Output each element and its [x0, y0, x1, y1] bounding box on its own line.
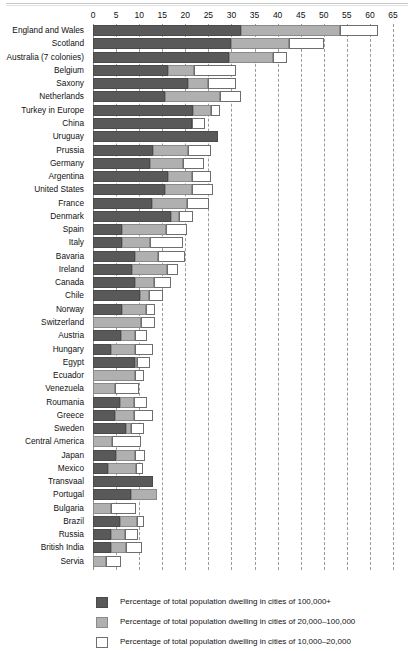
bar-row: Turkey in Europe: [0, 104, 414, 117]
bar-row: Prussia: [0, 143, 414, 156]
bar-row: Switzerland: [0, 316, 414, 329]
x-axis-ticks: 05101520253035404550556065: [0, 10, 414, 24]
bar-segment-series-2: [171, 211, 179, 222]
stacked-bar: [88, 91, 414, 102]
bar-row-label: Saxony: [0, 79, 88, 88]
bar-row: Bulgaria: [0, 502, 414, 515]
bar-segment-series-2: [231, 38, 289, 49]
bar-row-label: Switzerland: [0, 318, 88, 327]
legend-swatch: [96, 597, 108, 608]
stacked-bar: [88, 105, 414, 116]
bar-segment-series-1: [93, 105, 193, 116]
legend-item: Percentage of total population dwelling …: [96, 592, 414, 612]
bar-segment-series-3: [115, 383, 139, 394]
bar-row-label: Hungary: [0, 345, 88, 354]
bar-segment-series-3: [289, 38, 324, 49]
bar-row: British India: [0, 541, 414, 554]
bar-row: Chile: [0, 289, 414, 302]
bar-segment-series-3: [187, 198, 209, 209]
bar-row: Belgium: [0, 64, 414, 77]
bar-segment-series-1: [93, 38, 231, 49]
bar-row-label: Mexico: [0, 464, 88, 473]
bar-row: Austria: [0, 329, 414, 342]
stacked-bar: [88, 131, 414, 142]
bar-segment-series-2: [115, 410, 133, 421]
bar-segment-series-3: [111, 503, 135, 514]
bar-row-label: Roumania: [0, 398, 88, 407]
stacked-bar: [88, 476, 414, 487]
bar-row-label: United States: [0, 185, 88, 194]
x-axis-tick-label: 0: [91, 10, 96, 20]
bar-row: Spain: [0, 223, 414, 236]
bar-segment-series-3: [150, 237, 183, 248]
bar-segment-series-3: [146, 304, 155, 315]
bar-row-label: Venezuela: [0, 384, 88, 393]
legend-swatch: [96, 617, 108, 628]
bar-segment-series-1: [93, 476, 153, 487]
bar-row: Bavaria: [0, 250, 414, 263]
bar-row: Hungary: [0, 342, 414, 355]
bar-segment-series-3: [125, 529, 138, 540]
x-axis-tick-label: 30: [227, 10, 236, 20]
bar-segment-series-2: [165, 91, 220, 102]
bar-segment-series-1: [93, 529, 111, 540]
bar-segment-series-1: [93, 118, 192, 129]
bar-segment-series-1: [93, 397, 120, 408]
stacked-bar: [88, 529, 414, 540]
bar-segment-series-3: [135, 330, 148, 341]
bar-segment-series-3: [211, 105, 220, 116]
bar-segment-series-1: [93, 237, 122, 248]
bar-row: Italy: [0, 236, 414, 249]
bar-row-label: China: [0, 119, 88, 128]
bar-segment-series-3: [149, 290, 163, 301]
bar-segment-series-3: [194, 65, 236, 76]
bar-segment-series-1: [93, 516, 120, 527]
bar-row: Greece: [0, 409, 414, 422]
bar-segment-series-2: [93, 370, 135, 381]
legend-item: Percentage of total population dwelling …: [96, 632, 414, 651]
bar-segment-series-3: [137, 516, 144, 527]
bar-row-label: Denmark: [0, 212, 88, 221]
bar-segment-series-2: [131, 489, 156, 500]
bar-segment-series-1: [93, 52, 229, 63]
stacked-bar: [88, 211, 414, 222]
bar-segment-series-3: [158, 251, 186, 262]
bar-segment-series-2: [93, 556, 106, 567]
x-axis-tick-label: 5: [114, 10, 119, 20]
bar-segment-series-3: [166, 224, 187, 235]
bar-row-label: Sweden: [0, 424, 88, 433]
bar-row: Germany: [0, 157, 414, 170]
bar-row: Transvaal: [0, 475, 414, 488]
stacked-bar: [88, 542, 414, 553]
bar-segment-series-2: [120, 516, 138, 527]
bar-segment-series-3: [154, 277, 171, 288]
bar-segment-series-1: [93, 542, 111, 553]
plot-area: 05101520253035404550556065 England and W…: [0, 10, 414, 568]
bar-row: Sweden: [0, 422, 414, 435]
bar-row-label: Bulgaria: [0, 504, 88, 513]
bar-row-label: Central America: [0, 437, 88, 446]
bar-row: Japan: [0, 449, 414, 462]
bar-segment-series-2: [111, 542, 126, 553]
legend-swatch: [96, 637, 108, 648]
bar-segment-series-3: [134, 397, 147, 408]
bar-row: Uruguay: [0, 130, 414, 143]
bar-segment-series-2: [93, 383, 115, 394]
bar-segment-series-2: [153, 145, 188, 156]
stacked-bar: [88, 251, 414, 262]
bar-row-label: Germany: [0, 159, 88, 168]
bar-segment-series-2: [168, 65, 193, 76]
bar-row: Norway: [0, 303, 414, 316]
x-axis-tick-label: 60: [365, 10, 374, 20]
bar-row: France: [0, 196, 414, 209]
bar-row-label: Argentina: [0, 172, 88, 181]
bar-segment-series-1: [93, 78, 188, 89]
stacked-bar: [88, 198, 414, 209]
bar-segment-series-1: [93, 158, 150, 169]
bar-segment-series-3: [141, 317, 155, 328]
stacked-bar: [88, 383, 414, 394]
bar-segment-series-2: [135, 357, 137, 368]
stacked-bar: [88, 423, 414, 434]
bar-segment-series-3: [167, 264, 179, 275]
bar-row: Denmark: [0, 210, 414, 223]
